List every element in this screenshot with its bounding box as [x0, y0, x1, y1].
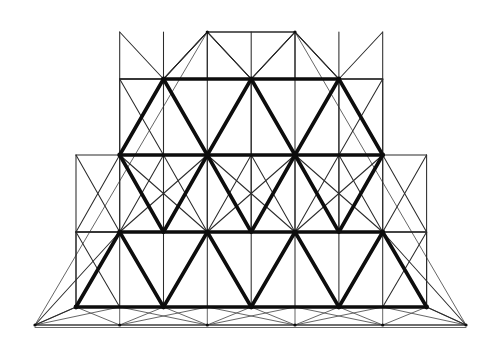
lattice-vertex — [337, 77, 342, 82]
outline-vertex — [118, 323, 121, 326]
outline-vertex — [206, 323, 209, 326]
lattice-vertex — [380, 153, 385, 158]
lattice-vertex — [293, 230, 298, 235]
lattice-vertex — [205, 153, 210, 158]
outline-vertex — [293, 323, 296, 326]
outline-vertex — [464, 323, 467, 326]
lattice-vertex — [205, 230, 210, 235]
outline-vertex — [33, 323, 36, 326]
lattice-vertex — [424, 305, 429, 310]
lattice-drawing — [0, 0, 503, 343]
lattice-vertex — [380, 230, 385, 235]
lattice-vertex — [293, 153, 298, 158]
lattice-vertex — [249, 77, 254, 82]
lattice-vertex — [117, 153, 122, 158]
lattice-vertex — [337, 305, 342, 310]
lattice-vertex — [161, 77, 166, 82]
lattice-vertex — [249, 305, 254, 310]
outline-vertex — [206, 30, 209, 33]
lattice-vertex — [117, 230, 122, 235]
figure-canvas — [0, 0, 503, 343]
outline-vertex — [381, 323, 384, 326]
lattice-vertex — [74, 305, 79, 310]
lattice-vertex — [161, 305, 166, 310]
outline-vertex — [293, 30, 296, 33]
